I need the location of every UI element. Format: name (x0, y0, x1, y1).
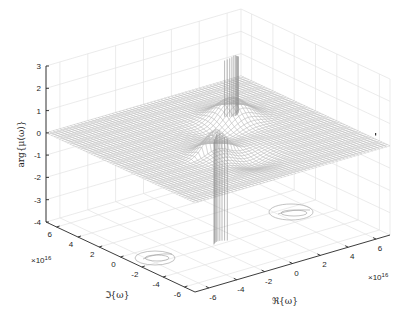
y-tick-label: 6 (47, 230, 52, 239)
y-tick-label: -6 (174, 290, 182, 299)
x-exp-base: ×10 (368, 273, 382, 282)
x-tick-label: 4 (350, 252, 355, 261)
z-tick-label: -1 (34, 151, 42, 160)
y-tick (78, 236, 81, 237)
y-tick (99, 246, 102, 247)
surface-plot: 3210-1-2-3-4 6420-2-4-6 -6-4-20246 arg{μ… (0, 0, 408, 320)
contour-left-inner (145, 255, 169, 261)
y-exp-pow: 16 (45, 255, 52, 261)
y-tick-label: 2 (90, 250, 95, 259)
y-tick (163, 276, 166, 277)
z-tick-label: -2 (34, 173, 42, 182)
y-ticks: 6420-2-4-6 (47, 226, 187, 299)
x-tick-label: 0 (294, 269, 299, 278)
x-tick (345, 246, 348, 248)
x-ticks: -6-4-20246 (206, 238, 383, 302)
contour-right-inner (281, 210, 307, 216)
x-tick-label: -6 (209, 293, 217, 302)
y-axis-label: ℑ{ω} (105, 290, 130, 300)
x-tick-label: 2 (322, 260, 327, 269)
z-axis-label: arg{μ(ω)} (16, 120, 26, 167)
z-ticks: 3210-1-2-3-4 (34, 62, 49, 227)
z-tick-label: -4 (34, 218, 42, 227)
z-tick-label: 0 (37, 129, 42, 138)
x-exponent: ×1016 (368, 272, 389, 282)
stray-mark (375, 133, 376, 136)
y-tick (57, 226, 60, 227)
x-tick (290, 262, 293, 264)
y-tick (142, 266, 145, 267)
y-tick-label: -2 (131, 270, 139, 279)
x-tick (373, 238, 376, 240)
x-tick-label: 6 (378, 244, 383, 253)
y-exp-base: ×10 (31, 256, 45, 265)
y-tick-label: 4 (69, 240, 74, 249)
y-tick-label: -4 (153, 280, 161, 289)
x-tick-label: -2 (265, 277, 273, 286)
x-exp-pow: 16 (382, 272, 389, 278)
y-exponent: ×1016 (31, 255, 52, 265)
x-tick (262, 270, 265, 272)
x-tick (317, 254, 320, 256)
x-axis-label: ℜ{ω} (272, 296, 298, 306)
z-tick-label: 1 (37, 107, 42, 116)
x-tick-label: -4 (237, 285, 245, 294)
y-tick-label: 0 (111, 260, 116, 269)
z-tick-label: -3 (34, 196, 42, 205)
y-tick (184, 286, 187, 287)
contour-right-line (278, 210, 310, 214)
svg-text:×1016: ×1016 (368, 272, 389, 282)
z-tick-label: 3 (37, 62, 42, 71)
svg-text:×1016: ×1016 (31, 255, 52, 265)
x-tick (206, 286, 209, 288)
floor-contours (135, 204, 313, 265)
x-tick (234, 278, 237, 280)
y-tick (121, 256, 124, 257)
z-tick-label: 2 (37, 84, 42, 93)
